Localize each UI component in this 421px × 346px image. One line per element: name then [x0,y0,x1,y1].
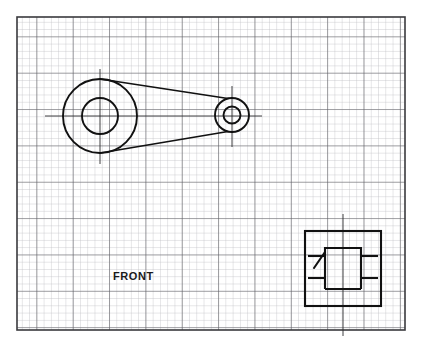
grid-lines [17,17,405,330]
drawing-page: FRONT [0,0,421,346]
front-view-label: FRONT [113,270,154,282]
graph-paper-sheet [0,0,421,346]
grid-major [17,17,405,330]
